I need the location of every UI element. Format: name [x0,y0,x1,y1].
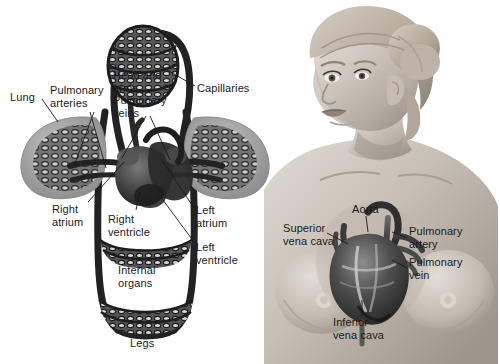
label-head-and-arms: Head and arms [113,69,162,94]
label-aorta: Aorta [352,203,379,216]
label-pulmonary-veins: Pulmonary veins [113,94,166,119]
label-right-ventricle: Right ventricle [108,213,150,238]
schematic-artwork [0,0,280,364]
label-pulmonary-artery: Pulmonary artery [409,225,462,250]
label-inferior-vena-cava: Inferior vena cava [333,316,384,341]
figure-canvas: Lung Pulmonary arteries Head and arms Pu… [0,0,500,364]
label-legs: Legs [130,337,154,350]
label-superior-vena-cava: Superior vena cava [283,222,334,247]
woman-illustration [262,0,500,364]
label-lung: Lung [10,91,35,104]
label-pulmonary-arteries: Pulmonary arteries [50,84,103,109]
woman-torso-panel [262,0,500,364]
label-right-atrium: Right atrium [52,203,83,228]
label-pulmonary-vein: Pulmonary vein [409,256,462,281]
label-internal-organs: Internal organs [118,264,156,289]
circulatory-schematic-panel [0,0,280,364]
right-lung [184,117,269,199]
label-left-ventricle: Left ventricle [196,241,238,266]
left-lung [21,117,106,199]
label-left-atrium: Left atrium [196,204,227,229]
label-capillaries: Capillaries [197,82,249,95]
